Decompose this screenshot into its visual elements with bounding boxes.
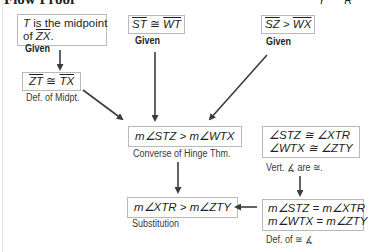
arrow-zt-to-hinge bbox=[83, 90, 122, 119]
flow-arrows bbox=[0, 0, 375, 252]
arrow-sz-to-hinge bbox=[210, 55, 267, 119]
